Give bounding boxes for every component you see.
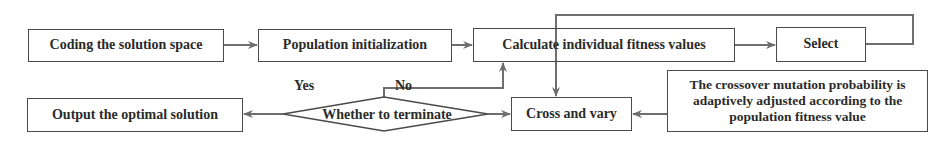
node-population-initialization: Population initialization [258,29,452,62]
node-output-optimal-solution: Output the optimal solution [27,98,243,132]
node-cross-and-vary: Cross and vary [511,97,632,131]
node-select: Select [776,27,866,62]
node-calculate-fitness: Calculate individual fitness values [473,28,735,62]
edge-label-no: No [395,78,412,94]
node-coding-solution-space: Coding the solution space [28,29,224,62]
node-adaptive-probability: The crossover mutation probability is ad… [667,70,928,132]
node-label: Population initialization [283,37,427,53]
node-label: The crossover mutation probability is ad… [674,77,921,126]
node-label: Cross and vary [526,106,617,122]
node-label: Select [804,36,839,52]
decision-whether-to-terminate: Whether to terminate [322,107,452,123]
node-label: Calculate individual fitness values [502,37,705,53]
node-label: Output the optimal solution [52,107,218,123]
node-label: Coding the solution space [50,37,203,53]
edge-label-yes: Yes [294,78,314,94]
